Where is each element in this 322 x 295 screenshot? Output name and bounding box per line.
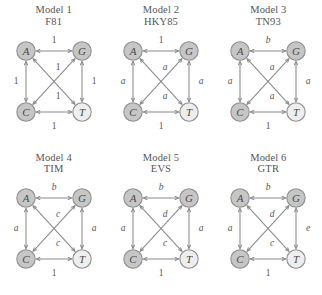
graph-edge (36, 49, 71, 52)
node-label: T (293, 106, 300, 118)
node-label: C (22, 106, 30, 118)
node-label: G (292, 192, 300, 204)
edge-rate-label: b (266, 182, 271, 192)
panel-title-block: Model 2HKY85 (143, 4, 179, 28)
model-name-label: F81 (35, 16, 71, 28)
model-panel: Model 2HKY85AGCT11aaaa (107, 0, 214, 148)
model-panel: Model 1F81AGCT111111 (0, 0, 107, 148)
edge-rate-label: a (270, 62, 275, 72)
node-label: G (185, 192, 193, 204)
panel-title-block: Model 5EVS (143, 152, 179, 176)
graph-node: A (16, 189, 34, 207)
node-label: A (236, 192, 244, 204)
edge-rate-label: 1 (13, 76, 18, 86)
graph-node: T (180, 250, 198, 268)
model-index-label: Model 6 (250, 152, 286, 164)
node-label: C (129, 253, 137, 265)
graph-edge (239, 208, 242, 248)
graph-edge (295, 61, 298, 101)
graph-node: T (180, 102, 198, 120)
graph-edge (251, 110, 286, 113)
model-name-label: HKY85 (143, 16, 179, 28)
graph-node: A (231, 41, 249, 59)
graph-node: T (72, 250, 90, 268)
graph-node: G (180, 41, 198, 59)
graph-edge (251, 49, 286, 52)
graph-edge (143, 49, 178, 52)
node-label: C (237, 253, 245, 265)
panel-title-block: Model 6GTR (250, 152, 286, 176)
edge-rate-label: 1 (91, 76, 96, 86)
model-index-label: Model 3 (250, 4, 286, 16)
graph-edge (187, 61, 190, 101)
edge-rate-label: 1 (51, 35, 56, 45)
node-label: A (129, 45, 137, 57)
model-name-label: TIM (35, 163, 71, 175)
graph-node: A (124, 189, 142, 207)
edge-rate-label: a (306, 76, 311, 86)
edge-rate-label: c (56, 209, 61, 219)
model-name-label: GTR (250, 163, 286, 175)
edge-rate-label: b (266, 35, 271, 45)
model-panel: Model 4TIMAGCTb1aacc (0, 148, 107, 295)
graph-node: T (72, 102, 90, 120)
graph-node: C (124, 102, 142, 120)
edge-rate-label: a (163, 91, 168, 101)
node-label: G (78, 45, 86, 57)
graph-edge (143, 110, 178, 113)
graph-edge (131, 61, 134, 101)
model-name-label: TN93 (250, 16, 286, 28)
edge-rate-label: b (159, 182, 164, 192)
node-label: T (79, 106, 86, 118)
graph-node: G (180, 189, 198, 207)
edge-rate-label: a (121, 223, 126, 233)
graph-node: C (231, 250, 249, 268)
graph-edge (143, 197, 178, 200)
model-graph: AGCT111111 (4, 29, 104, 134)
graph-edge (24, 208, 27, 248)
model-grid: Model 1F81AGCT111111Model 2HKY85AGCT11aa… (0, 0, 322, 295)
graph-edge (80, 61, 83, 101)
edge-rate-label: a (228, 223, 233, 233)
panel-title-block: Model 1F81 (35, 4, 71, 28)
edge-rate-label: a (13, 223, 18, 233)
model-name-label: EVS (143, 163, 179, 175)
graph-node: G (72, 41, 90, 59)
node-label: A (21, 45, 29, 57)
node-label: A (236, 45, 244, 57)
model-graph: AGCTb1aaaa (218, 29, 318, 134)
graph-node: C (16, 250, 34, 268)
edge-rate-label: c (56, 238, 61, 248)
model-index-label: Model 2 (143, 4, 179, 16)
edge-rate-label: b (51, 182, 56, 192)
graph-node: A (231, 189, 249, 207)
edge-rate-label: d (163, 209, 168, 219)
graph-node: C (124, 250, 142, 268)
model-index-label: Model 5 (143, 152, 179, 164)
edge-rate-label: a (91, 223, 96, 233)
graph-edge (187, 208, 190, 248)
node-label: C (22, 253, 30, 265)
node-label: A (21, 192, 29, 204)
panel-title-block: Model 4TIM (35, 152, 71, 176)
edge-rate-label: a (199, 76, 204, 86)
graph-node: A (16, 41, 34, 59)
edge-rate-label: 1 (55, 91, 60, 101)
graph-node: C (16, 102, 34, 120)
edge-rate-label: 1 (51, 121, 56, 131)
model-graph: AGCTb1aedc (218, 176, 318, 281)
edge-rate-label: 1 (51, 268, 56, 278)
edge-rate-label: 1 (159, 121, 164, 131)
graph-edge (36, 258, 71, 261)
panel-title-block: Model 3TN93 (250, 4, 286, 28)
model-panel: Model 6GTRAGCTb1aedc (215, 148, 322, 295)
model-panel: Model 5EVSAGCTb1aadc (107, 148, 214, 295)
node-label: A (129, 192, 137, 204)
graph-node: G (72, 189, 90, 207)
graph-edge (36, 110, 71, 113)
node-label: T (79, 253, 86, 265)
graph-edge (131, 208, 134, 248)
graph-node: T (287, 102, 305, 120)
edge-rate-label: 1 (266, 121, 271, 131)
graph-edge (24, 61, 27, 101)
